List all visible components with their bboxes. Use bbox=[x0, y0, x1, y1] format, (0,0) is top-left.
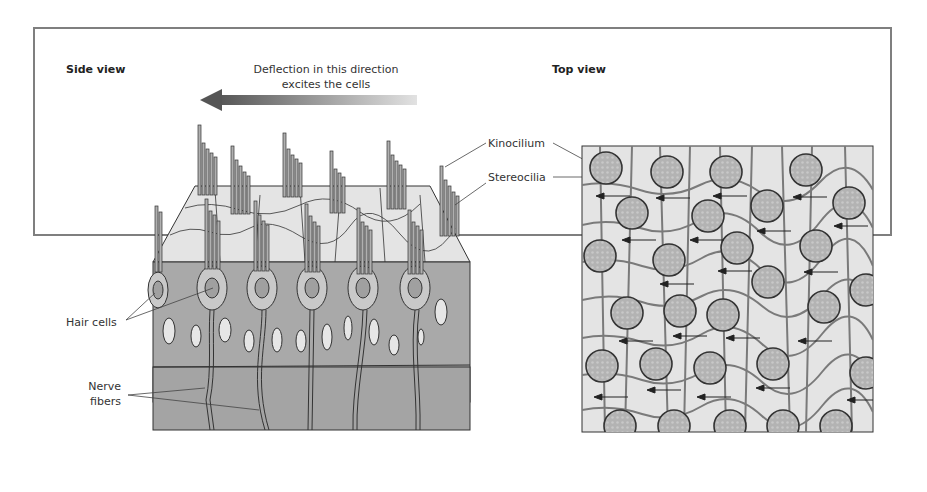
label-hair-cells: Hair cells bbox=[66, 316, 117, 329]
hair-cell-diagram: Side view Deflection in this direction e… bbox=[0, 0, 927, 492]
top-view-title: Top view bbox=[552, 63, 606, 76]
side-view-title: Side view bbox=[66, 63, 125, 76]
direction-caption-line2: excites the cells bbox=[282, 78, 371, 91]
label-stereocilia: Stereocilia bbox=[488, 171, 546, 184]
top-view-illustration bbox=[582, 146, 882, 442]
deflection-arrow-icon bbox=[200, 89, 417, 111]
label-nerve-line2: fibers bbox=[90, 395, 121, 408]
side-view-illustration: Hair cells Nerve fibers Kinocilium Stere… bbox=[66, 125, 592, 430]
label-kinocilium: Kinocilium bbox=[488, 137, 545, 150]
direction-caption-line1: Deflection in this direction bbox=[254, 63, 399, 76]
label-nerve-line1: Nerve bbox=[88, 380, 121, 393]
